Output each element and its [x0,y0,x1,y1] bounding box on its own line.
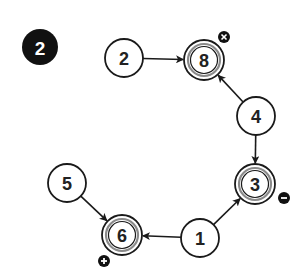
node-label: 5 [62,174,72,194]
remove-icon [218,31,230,43]
edge-1-to-3 [214,199,240,225]
edge-1-to-6 [143,236,181,237]
node-8: 8 [184,40,224,80]
node-label: 2 [119,49,129,69]
edge-5-to-6 [81,196,107,221]
node-6: 6 [102,215,142,255]
edge-2-to-8 [143,58,183,59]
step-badge-label: 2 [35,38,46,59]
node-label: 8 [199,51,209,71]
node-1: 1 [181,219,219,257]
node-label: 3 [250,175,260,195]
node-label: 1 [195,229,205,249]
node-5: 5 [48,164,86,202]
diagram-canvas: 2843165 2 [0,0,307,267]
plus-icon [98,255,110,267]
node-3: 3 [235,164,275,204]
edge-4-to-8 [218,75,243,102]
node-label: 6 [117,226,127,246]
edges-layer [81,58,256,237]
node-2: 2 [105,39,143,77]
graph-diagram: 2843165 2 [0,0,307,267]
minus-icon [278,192,290,204]
nodes-layer: 2843165 [48,39,275,257]
step-badge: 2 [22,29,58,65]
node-4: 4 [237,97,275,135]
node-label: 4 [251,107,261,127]
